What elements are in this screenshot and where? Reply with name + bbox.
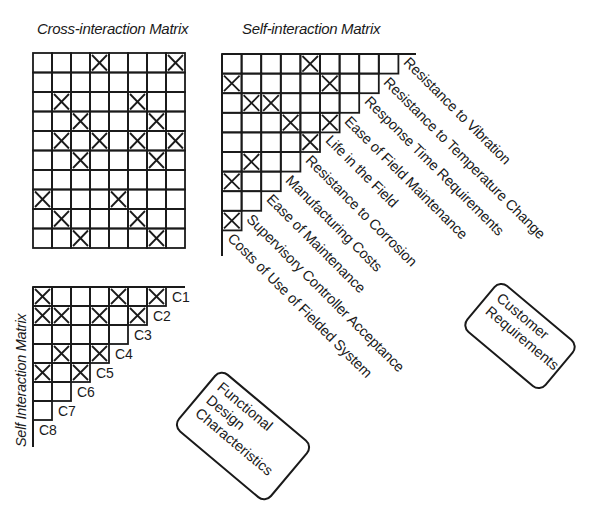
design-characteristic-label: C1	[172, 289, 190, 305]
design-characteristic-label: C4	[115, 346, 133, 362]
design-characteristic-label: C6	[77, 384, 95, 400]
design-characteristic-label: C3	[134, 327, 152, 343]
design-characteristic-label: C8	[39, 422, 57, 438]
design-characteristic-label: C5	[96, 365, 114, 381]
design-characteristic-label: C7	[58, 403, 76, 419]
design-characteristic-label: C2	[153, 308, 171, 324]
